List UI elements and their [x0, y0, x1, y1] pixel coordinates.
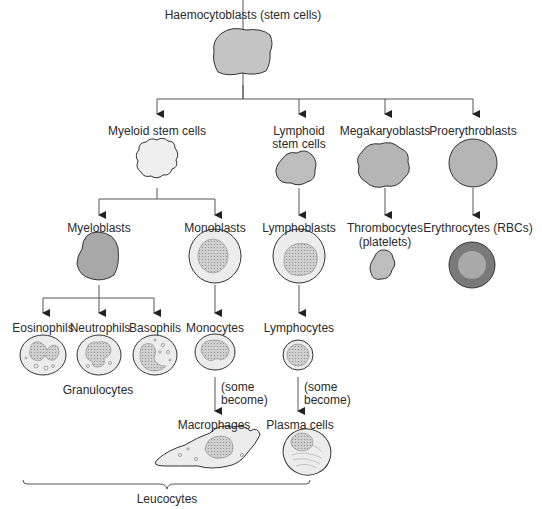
proerythroblasts-label: Proerythroblasts	[429, 124, 516, 138]
myeloid-stem-cells-label: Myeloid stem cells	[108, 124, 206, 138]
erythrocytes-label: Erythrocytes (RBCs)	[423, 221, 532, 235]
diagram-graphics	[0, 0, 542, 509]
haematopoiesis-diagram: Haemocytoblasts (stem cells) Myeloid ste…	[0, 0, 542, 509]
lymphocytes-label: Lymphocytes	[264, 321, 334, 335]
megakaryoblasts-label: Megakaryoblasts	[340, 124, 431, 138]
thrombocytes-label-line2: (platelets)	[359, 235, 412, 249]
haemocytoblast-cell	[214, 29, 273, 75]
basophils-label: Basophils	[129, 321, 181, 335]
haemocytoblasts-label: Haemocytoblasts (stem cells)	[165, 8, 322, 22]
neutrophils-label: Neutrophils	[70, 321, 131, 335]
lymphocyte-some-line1: (some	[304, 380, 337, 394]
monoblast-nucleus	[198, 239, 228, 273]
erythrocyte-center	[458, 251, 486, 279]
lymphoblast-nucleus	[284, 243, 317, 275]
myeloblast-cell	[77, 232, 119, 280]
lymphoid-label-line2: stem cells	[272, 137, 325, 151]
macrophages-label: Macrophages	[178, 418, 251, 432]
thrombocyte-cell	[370, 250, 395, 280]
leucocytes-label: Leucocytes	[137, 492, 198, 506]
lymphoblasts-label: Lymphoblasts	[262, 221, 336, 235]
monocytes-label: Monocytes	[186, 321, 244, 335]
leucocytes-brace	[23, 480, 310, 489]
plasma-cells-label: Plasma cells	[266, 418, 333, 432]
thrombocytes-label-line1: Thrombocytes	[347, 221, 423, 235]
myeloblasts-label: Myeloblasts	[67, 221, 130, 235]
eosinophils-label: Eosinophils	[12, 321, 73, 335]
monocyte-some-line2: become)	[221, 393, 268, 407]
monoblasts-label: Monoblasts	[184, 221, 245, 235]
monocyte-some-line1: (some	[221, 380, 254, 394]
lymphoid-label-line1: Lymphoid	[273, 124, 325, 138]
proerythroblast-cell	[449, 139, 497, 187]
granulocytes-label: Granulocytes	[63, 383, 134, 397]
myeloid-stem-cell	[136, 138, 178, 178]
lymphoid-stem-cell	[276, 151, 316, 185]
megakaryoblast-cell	[358, 143, 410, 188]
lymphocyte-some-line2: become)	[304, 393, 351, 407]
